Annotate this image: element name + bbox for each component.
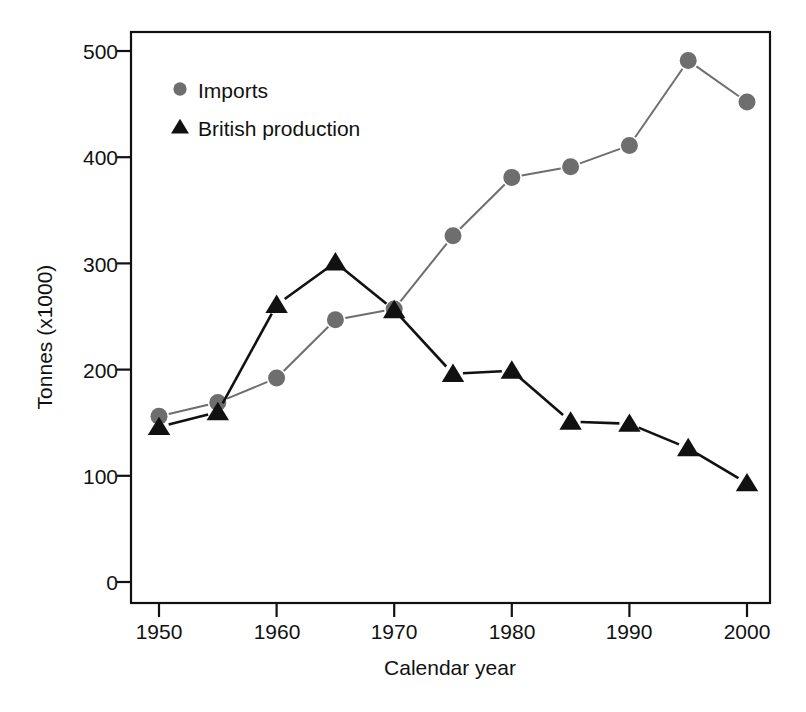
- x-tick-label-1970: 1970: [344, 620, 444, 644]
- x-tick-label-1960: 1960: [227, 620, 327, 644]
- x-tick-label-1950: 1950: [109, 620, 209, 644]
- y-axis-title: Tonnes (x1000): [33, 187, 57, 487]
- series-line-2: [401, 317, 446, 366]
- series-line-2: [581, 422, 620, 423]
- series-line-2: [343, 269, 386, 304]
- legend-label-imports: Imports: [198, 79, 268, 103]
- data-point-1-1990: [621, 137, 638, 154]
- chart-plot-area: [0, 0, 806, 712]
- y-tick-label-500: 500: [40, 40, 118, 64]
- series-line-2: [169, 415, 208, 425]
- series-line-1: [460, 184, 505, 228]
- chart-figure: 0 100 200 300 400 500 1950 1960 1970 198…: [0, 0, 806, 712]
- series-line-1: [696, 66, 738, 96]
- series-line-1: [169, 405, 208, 414]
- series-line-1: [345, 311, 384, 318]
- series-line-2: [639, 428, 679, 445]
- data-point-2-1995: [677, 438, 699, 456]
- x-axis-title: Calendar year: [300, 656, 600, 680]
- legend-marker-triangle-icon: [171, 119, 189, 134]
- data-point-1-1975: [445, 227, 462, 244]
- x-tick-label-1980: 1980: [462, 620, 562, 644]
- series-line-2: [463, 371, 502, 373]
- data-point-1-1980: [503, 169, 520, 186]
- series-line-1: [635, 69, 682, 138]
- data-point-1-1965: [327, 311, 344, 328]
- data-point-1-1985: [562, 158, 579, 175]
- x-tick-label-1990: 1990: [579, 620, 679, 644]
- data-point-2-1990: [618, 413, 640, 431]
- data-point-2-1960: [265, 294, 287, 312]
- data-point-1-1960: [268, 370, 285, 387]
- series-line-1: [522, 169, 561, 176]
- series-line-2: [285, 268, 328, 299]
- legend-label-british-production: British production: [198, 117, 360, 141]
- y-tick-label-0: 0: [40, 571, 118, 595]
- series-line-1: [400, 244, 446, 302]
- series-line-1: [580, 149, 620, 163]
- data-point-2-1965: [324, 252, 346, 270]
- y-tick-label-400: 400: [40, 146, 118, 170]
- data-point-1-2000: [739, 93, 756, 110]
- data-point-1-1995: [680, 52, 697, 69]
- series-line-2: [697, 453, 739, 478]
- legend-marker-circle-icon: [173, 82, 186, 95]
- legend-markers: [171, 82, 189, 133]
- x-tick-label-2000: 2000: [697, 620, 797, 644]
- data-point-2-2000: [736, 473, 758, 491]
- data-point-2-1980: [501, 360, 523, 378]
- series-line-2: [519, 377, 563, 415]
- series-line-1: [284, 327, 329, 371]
